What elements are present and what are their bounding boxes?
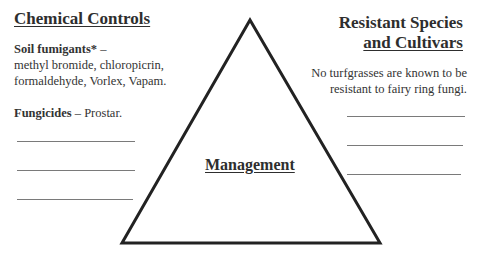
soil-fumigants-text: methyl bromide, chloropicrin, formaldehy…: [14, 57, 194, 89]
resistant-species-title-line1: Resistant Species: [339, 13, 463, 33]
left-blank-line-2: [17, 170, 135, 171]
fungicides-label: Fungicides: [14, 106, 72, 120]
soil-fumigants-separator: –: [97, 42, 106, 56]
chemical-controls-title: Chemical Controls: [14, 9, 150, 29]
resistant-species-title: Resistant Species and Cultivars: [339, 13, 463, 53]
resistant-species-title-line2: and Cultivars: [339, 33, 463, 53]
left-blank-line-1: [17, 141, 135, 142]
right-blank-line-1: [347, 116, 465, 117]
left-blank-line-3: [17, 199, 133, 200]
fungicides-text: Prostar.: [84, 106, 122, 120]
fungicides-block: Fungicides – Prostar.: [14, 105, 122, 121]
soil-fumigants-block: Soil fumigants* – methyl bromide, chloro…: [14, 41, 214, 89]
right-blank-line-3: [347, 174, 461, 175]
right-blank-line-2: [347, 145, 463, 146]
fungicides-separator: –: [72, 106, 85, 120]
resistant-species-text: No turfgrasses are known to be resistant…: [287, 65, 467, 97]
soil-fumigants-label: Soil fumigants*: [14, 42, 97, 56]
management-label: Management: [205, 155, 295, 175]
